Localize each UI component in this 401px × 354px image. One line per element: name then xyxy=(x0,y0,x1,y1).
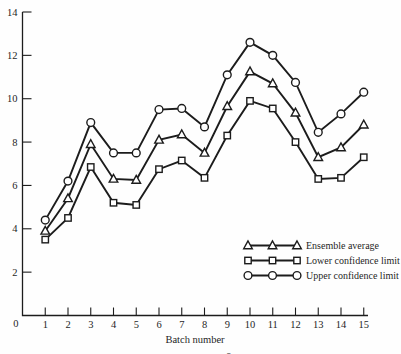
series-lower-confidence-limit-marker-square xyxy=(156,166,162,172)
x-tick-label: 10 xyxy=(245,319,256,330)
series-upper-confidence-limit-marker-circle xyxy=(132,149,140,157)
x-axis-label: Batch number xyxy=(22,334,368,345)
series-upper-confidence-limit-marker-circle xyxy=(110,149,118,157)
series-ensemble-average-marker-triangle xyxy=(177,130,186,138)
series-upper-confidence-limit-marker-circle xyxy=(314,128,322,136)
legend-circle-icon xyxy=(293,272,301,280)
series-lower-confidence-limit-marker-square xyxy=(315,176,321,182)
x-tick-label: 4 xyxy=(111,319,117,330)
x-tick-label: 14 xyxy=(336,319,347,330)
y-tick-label: 8 xyxy=(12,137,17,148)
series-lower-confidence-limit-marker-square xyxy=(247,98,253,104)
y-tick-label: 0 xyxy=(13,318,18,329)
series-lower-confidence-limit-marker-square xyxy=(179,157,185,163)
series-upper-confidence-limit-marker-circle xyxy=(64,177,72,185)
series-upper-confidence-limit-marker-circle xyxy=(269,51,277,59)
legend-square-icon xyxy=(245,257,251,263)
series-upper-confidence-limit-marker-circle xyxy=(41,216,49,224)
y-tick-label: 14 xyxy=(7,7,18,18)
series-lower-confidence-limit-marker-square xyxy=(361,154,367,160)
series-lower-confidence-limit-marker-square xyxy=(292,139,298,145)
series-upper-confidence-limit-marker-circle xyxy=(246,38,254,46)
y-tick-label: 6 xyxy=(12,180,17,191)
series-lower-confidence-limit-marker-square xyxy=(270,105,276,111)
x-tick-label: 13 xyxy=(313,319,324,330)
series-ensemble-average-marker-triangle xyxy=(86,140,95,148)
caption-fragment: x̄ xyxy=(226,350,242,354)
x-tick-label: 1 xyxy=(43,319,48,330)
x-tick-label: 7 xyxy=(179,319,184,330)
series-upper-confidence-limit-marker-circle xyxy=(155,106,163,114)
series-lower-confidence-limit-marker-square xyxy=(110,200,116,206)
y-tick-label: 12 xyxy=(7,50,18,61)
series-upper-confidence-limit-marker-circle xyxy=(201,123,209,131)
y-tick-label: 2 xyxy=(12,267,17,278)
chart-figure: 02468101214123456789101112131415Ensemble… xyxy=(0,0,401,354)
x-tick-label: 5 xyxy=(134,319,139,330)
series-upper-confidence-limit-marker-circle xyxy=(337,110,345,118)
legend-ensemble-average-label: Ensemble average xyxy=(306,240,380,251)
series-upper-confidence-limit-marker-circle xyxy=(178,105,186,113)
legend-circle-icon xyxy=(244,272,252,280)
legend-square-icon xyxy=(294,257,300,263)
series-lower-confidence-limit-marker-square xyxy=(88,164,94,170)
legend-square-icon xyxy=(269,257,275,263)
series-lower-confidence-limit-marker-square xyxy=(224,132,230,138)
series-lower-confidence-limit-marker-square xyxy=(201,175,207,181)
legend-circle-icon xyxy=(269,272,277,280)
series-upper-confidence-limit-marker-circle xyxy=(223,71,231,79)
series-lower-confidence-limit-marker-square xyxy=(42,236,48,242)
series-upper-confidence-limit-marker-circle xyxy=(87,119,95,127)
y-tick-label: 10 xyxy=(7,93,18,104)
series-lower-confidence-limit-marker-square xyxy=(133,202,139,208)
series-lower-confidence-limit-marker-square xyxy=(65,215,71,221)
x-tick-label: 15 xyxy=(359,319,370,330)
series-ensemble-average-marker-triangle xyxy=(246,67,255,75)
series-ensemble-average-marker-triangle xyxy=(64,194,73,202)
x-tick-label: 6 xyxy=(156,319,161,330)
series-upper-confidence-limit-marker-circle xyxy=(292,79,300,87)
series-ensemble-average-marker-triangle xyxy=(359,120,368,128)
legend-lower-confidence-limit-label: Lower confidence limit xyxy=(306,255,400,266)
line-chart: 02468101214123456789101112131415Ensemble… xyxy=(0,0,401,354)
series-upper-confidence-limit-marker-circle xyxy=(360,88,368,96)
legend-upper-confidence-limit-label: Upper confidence limit xyxy=(306,270,399,281)
series-lower-confidence-limit-marker-square xyxy=(338,175,344,181)
x-tick-label: 12 xyxy=(290,319,301,330)
x-tick-label: 8 xyxy=(202,319,207,330)
x-tick-label: 2 xyxy=(65,319,70,330)
x-tick-label: 11 xyxy=(268,319,278,330)
x-tick-label: 3 xyxy=(88,319,93,330)
x-tick-label: 9 xyxy=(225,319,230,330)
y-tick-label: 4 xyxy=(12,223,18,234)
